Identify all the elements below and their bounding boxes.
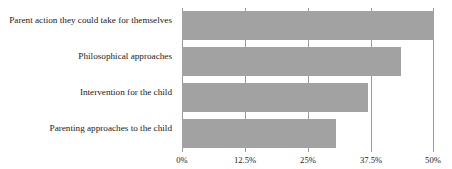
x-tick-label-0: 0% — [176, 153, 187, 167]
bar-chart: Parent action they could take for themse… — [0, 0, 452, 169]
bar-intervention-for-the-child — [182, 83, 368, 112]
category-axis-labels: Parent action they could take for themse… — [0, 0, 178, 152]
category-label-parent-action: Parent action they could take for themse… — [0, 15, 172, 26]
x-tick-label-4: 50% — [425, 153, 441, 167]
bar-parenting-approaches — [182, 119, 336, 148]
plot-area — [182, 8, 434, 152]
category-label-philosophical-approaches: Philosophical approaches — [0, 51, 172, 62]
bar-philosophical-approaches — [182, 47, 401, 76]
category-label-parenting-approaches: Parenting approaches to the child — [0, 123, 172, 134]
x-tick-label-2: 25% — [300, 153, 316, 167]
bar-parent-action — [182, 11, 434, 40]
x-axis-tick-labels: 0% 12.5% 25% 37.5% 50% — [182, 153, 434, 169]
x-tick-label-1: 12.5% — [234, 153, 256, 167]
category-label-intervention-for-the-child: Intervention for the child — [0, 87, 172, 98]
x-tick-label-3: 37.5% — [360, 153, 382, 167]
